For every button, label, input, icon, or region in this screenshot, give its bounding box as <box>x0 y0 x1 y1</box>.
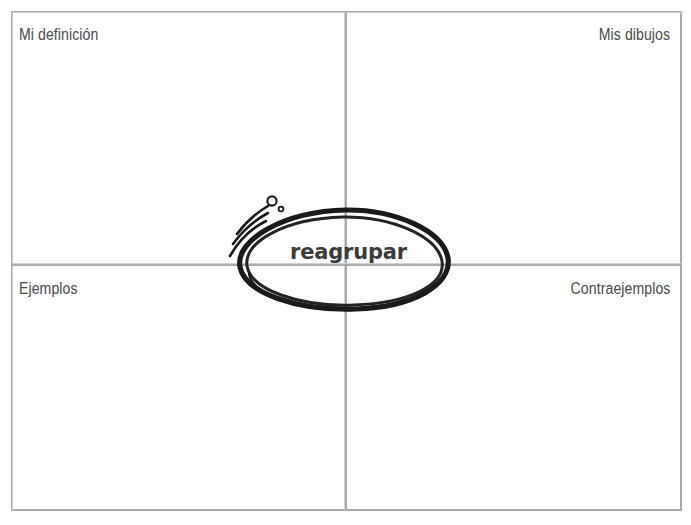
center-term-group: reagrupar <box>225 182 465 322</box>
bubble-small-icon <box>279 207 284 212</box>
quadrant-label-counterexamples: Contraejemplos <box>570 280 670 298</box>
oval-inner-stroke <box>247 217 443 305</box>
frayer-model-worksheet: Mi definición Mis dibujos Ejemplos Contr… <box>0 0 691 525</box>
bubble-large-icon <box>267 196 276 205</box>
quadrant-label-examples: Ejemplos <box>19 280 78 298</box>
quadrant-label-my-definition: Mi definición <box>19 26 98 44</box>
quadrant-label-my-drawings: Mis dibujos <box>599 26 670 44</box>
hand-drawn-oval-icon <box>225 182 465 322</box>
